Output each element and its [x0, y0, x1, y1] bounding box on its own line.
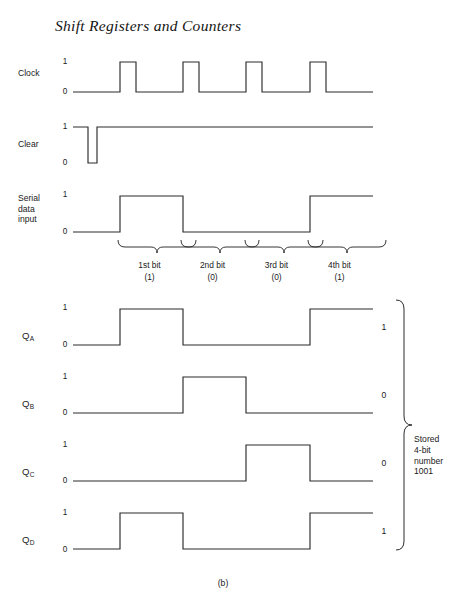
final-value-qb: 0: [378, 390, 390, 400]
waveform-clock: [73, 62, 373, 92]
stored-number-note: Stored 4-bit number 1001: [414, 434, 443, 477]
bit-4-name: 4th bit: [328, 260, 351, 270]
bit-3-value: (0): [271, 272, 281, 282]
waveform-qa: [73, 309, 373, 345]
bit-1-value: (1): [144, 272, 154, 282]
bit-label-4: 4th bit (1): [308, 260, 371, 283]
waveform-qc: [73, 445, 373, 481]
bit-label-2: 2nd bit (0): [181, 260, 244, 283]
final-value-qa: 1: [378, 322, 390, 332]
bit-label-3: 3rd bit (0): [245, 260, 308, 283]
waveform-qb: [73, 377, 373, 413]
bit-period-braces: [118, 240, 386, 253]
final-value-qc: 0: [378, 458, 390, 468]
stored-number-brace: [396, 300, 412, 550]
figure-caption: (b): [203, 578, 243, 588]
bit-4-value: (1): [334, 272, 344, 282]
final-value-qd: 1: [378, 526, 390, 536]
bit-2-value: (0): [207, 272, 217, 282]
waveform-clear: [73, 127, 373, 163]
waveform-qd: [73, 513, 373, 549]
waveform-canvas: [0, 0, 457, 603]
bit-label-1: 1st bit (1): [118, 260, 181, 283]
waveform-serial-data-input: [73, 196, 373, 232]
timing-diagram-figure: Shift Registers and Counters Clock Clear…: [0, 0, 457, 603]
bit-3-name: 3rd bit: [265, 260, 288, 270]
bit-1-name: 1st bit: [138, 260, 160, 270]
bit-2-name: 2nd bit: [200, 260, 225, 270]
